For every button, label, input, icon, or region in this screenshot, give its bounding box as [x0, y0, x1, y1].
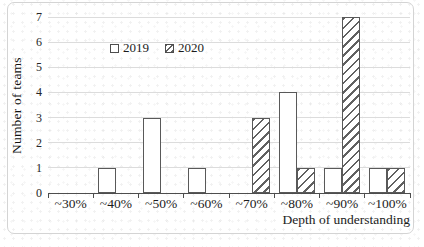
- y-axis-tick-labels: 01234567: [20, 17, 42, 193]
- figure-page: Number of teams 01234567 2019 2020 ~30%~…: [0, 0, 424, 247]
- x-tick-label-~60%: ~60%: [184, 196, 229, 212]
- legend-item-2020: 2020: [165, 40, 204, 56]
- bar-2019-~40%: [98, 168, 116, 193]
- x-tick-label-~30%: ~30%: [48, 196, 93, 212]
- y-tick-label-6: 6: [20, 36, 42, 48]
- bar-2019-~60%: [188, 168, 206, 193]
- x-tick-label-~40%: ~40%: [93, 196, 138, 212]
- bar-2019-~50%: [143, 118, 161, 193]
- x-tick-label-~70%: ~70%: [229, 196, 274, 212]
- x-tick-label-~80%: ~80%: [274, 196, 319, 212]
- y-tick-label-5: 5: [20, 61, 42, 73]
- legend-swatch-2020: [165, 44, 174, 53]
- y-tick-label-3: 3: [20, 112, 42, 124]
- y-tick-label-0: 0: [20, 187, 42, 199]
- legend-label-2019: 2019: [123, 40, 149, 56]
- y-tick-label-7: 7: [20, 11, 42, 23]
- plot-area: 2019 2020: [48, 17, 410, 193]
- bar-2020-~80%: [297, 168, 315, 193]
- x-tick-label-~100%: ~100%: [365, 196, 410, 212]
- y-tick-label-2: 2: [20, 137, 42, 149]
- y-tick-label-4: 4: [20, 86, 42, 98]
- bar-2019-~90%: [324, 168, 342, 193]
- bar-2019-~100%: [369, 168, 387, 193]
- bar-2020-~100%: [387, 168, 405, 193]
- x-tick-label-~90%: ~90%: [320, 196, 365, 212]
- x-tick-label-~50%: ~50%: [139, 196, 184, 212]
- x-axis-title: Depth of understanding: [283, 212, 410, 228]
- legend-swatch-2019: [110, 44, 119, 53]
- bar-2020-~70%: [252, 118, 270, 193]
- legend: 2019 2020: [110, 40, 204, 56]
- legend-item-2019: 2019: [110, 40, 149, 56]
- bar-2020-~90%: [342, 17, 360, 193]
- legend-label-2020: 2020: [178, 40, 204, 56]
- bar-2019-~80%: [279, 92, 297, 193]
- y-tick-label-1: 1: [20, 162, 42, 174]
